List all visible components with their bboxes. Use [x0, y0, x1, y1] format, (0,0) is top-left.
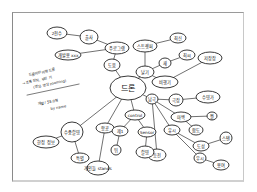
node-label: 뒤 [114, 147, 118, 154]
node-label: 마백 [177, 114, 185, 121]
mind-map-node: 제1 [112, 126, 128, 136]
node-label: 용여 [217, 162, 225, 169]
mind-map-nodes: 2천수출사주로그램개발용 xxx도움스트렛퍼최신날기새최씨비행기저장장남극극장수… [33, 27, 232, 175]
node-label: 날기 [141, 69, 149, 76]
mind-map: 2천수출사주로그램개발용 xxx도움스트렛퍼최신날기새최씨비행기저장장남극극장수… [0, 0, 257, 192]
node-label: 새 [163, 60, 167, 67]
mind-map-node: 개발용 xxx [55, 50, 81, 60]
note-line-5: by name [50, 104, 67, 111]
mind-map-node: 마백 [171, 112, 191, 122]
node-label: 합도 [192, 127, 200, 133]
mind-map-edge [152, 99, 157, 155]
node-label: 주로그램 [109, 45, 125, 52]
mind-map-node: 촬영 [136, 146, 154, 158]
node-label: 뭘 [210, 113, 214, 120]
mind-map-node: Sensor [138, 127, 156, 137]
node-label: 제1 [117, 128, 124, 135]
mind-map-node: 한정 정보 [33, 136, 59, 148]
center-node: 드론 [110, 76, 146, 100]
mind-map-node: 도움 [104, 59, 120, 71]
note-line-4: 개발 / 55.0형 [37, 98, 58, 106]
mind-map-node: 저장장 [198, 52, 222, 64]
mind-map-node: 용여 [213, 160, 229, 170]
mind-map-node: 뒤 [111, 145, 121, 155]
node-label: 개발용 xxx [58, 52, 79, 59]
node-label: control [128, 113, 143, 118]
mind-map-node: 스트렛퍼 [133, 40, 157, 52]
mind-map-node: 특별 [71, 153, 89, 163]
mind-map-node: 도성 [193, 141, 209, 151]
mind-map-node: 수영가 [196, 91, 220, 103]
mind-map-node: 극장 [169, 94, 183, 106]
node-label: 남극 [148, 96, 156, 103]
node-label: 최씨 [183, 52, 191, 59]
mind-map-node: 최신 [170, 33, 186, 43]
node-label: 개인들 stands [84, 165, 111, 172]
mind-map-node: 비행기 [152, 76, 178, 88]
mind-map-node: 합도 [189, 125, 203, 135]
node-label: 최신 [174, 35, 182, 42]
author-note: 개발 / 55.0형 by name [37, 96, 67, 113]
node-label: 저장장 [204, 55, 216, 62]
node-label: 촬영 [141, 149, 149, 156]
mind-map-node: 우시 [194, 153, 206, 163]
mind-map-node: 주로그램 [105, 42, 129, 54]
mind-map-node: 항공 [96, 123, 114, 133]
node-label: 2천수 [52, 30, 63, 37]
mind-map-node: 새 [159, 58, 171, 68]
node-label: 스탠 [222, 135, 230, 141]
node-label: Sensor [140, 130, 155, 135]
mind-map-node: 수중촬영 [61, 122, 83, 142]
node-label: 수영가 [202, 94, 214, 101]
mind-map-node: 2천수 [47, 27, 67, 39]
mind-map-node: 출사 [80, 30, 98, 44]
note-line-1: 드론이란 비행 드론 [28, 67, 56, 78]
node-label: 스트렛퍼 [137, 43, 153, 50]
mind-map-node: 최씨 [179, 50, 195, 60]
node-label: 수중촬영 [64, 129, 80, 136]
node-label: 한정 정보 [37, 139, 54, 145]
mind-map-node: 날기 [136, 66, 154, 78]
node-label: 도성 [197, 143, 205, 149]
mind-map-node: 유시 [164, 125, 180, 135]
mind-map-node: 남극 [146, 94, 158, 104]
mind-map-node: 스탠 [220, 132, 232, 144]
node-label: 출사 [85, 34, 93, 41]
node-label: 드론 [121, 84, 135, 93]
node-label: 도움 [108, 63, 116, 68]
node-label: 항공 [101, 125, 109, 131]
handwritten-note: 드론이란 비행 드론 → 조종 장치, 무인 기 (영상, 영상 zooming… [20, 62, 79, 95]
node-label: 비행기 [159, 79, 171, 86]
mind-map-node: control [125, 110, 145, 120]
mind-map-node: 뭘 [207, 112, 217, 120]
node-label: 극장 [172, 97, 180, 104]
mind-map-node: 개인들 stands [84, 161, 111, 175]
node-label: 특별 [76, 155, 84, 162]
